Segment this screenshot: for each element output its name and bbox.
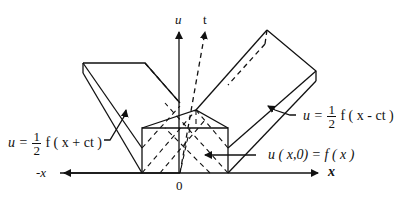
left-wave-equation: u = 12 f ( x + ct ) <box>8 130 102 157</box>
x-neg-label: -x <box>36 166 46 179</box>
right-eq-fraction: 12 <box>327 103 336 130</box>
left-eq-lhs: u = <box>8 135 28 150</box>
right-wave-equation: u = 12 f ( x - ct ) <box>303 103 394 130</box>
right-eq-num: 1 <box>327 103 336 117</box>
origin-label: 0 <box>176 179 183 192</box>
initial-pulse <box>142 128 228 173</box>
u-axis-label: u <box>175 13 182 26</box>
x-pos-label: x <box>328 165 335 179</box>
right-eq-den: 2 <box>328 117 335 130</box>
right-leader <box>268 106 296 115</box>
right-slab-top <box>267 30 316 81</box>
left-eq-rhs: f ( x + ct ) <box>45 135 102 150</box>
t-axis-label: t <box>203 13 207 26</box>
left-eq-num: 1 <box>32 130 41 144</box>
wave-diagram <box>0 0 395 197</box>
initial-condition-equation: u ( x,0) = f ( x ) <box>268 148 354 162</box>
right-eq-lhs: u = <box>303 108 323 123</box>
left-eq-den: 2 <box>33 144 40 157</box>
t-axis <box>180 32 205 173</box>
right-eq-rhs: f ( x - ct ) <box>340 108 393 123</box>
left-eq-fraction: 12 <box>32 130 41 157</box>
